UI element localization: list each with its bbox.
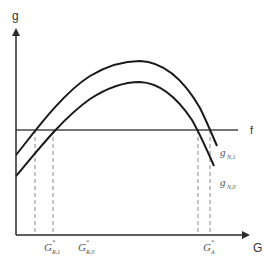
tick-label-g-r0-main: G xyxy=(78,241,86,253)
curve-label-g-n0-sub: N,0 xyxy=(226,184,236,190)
curve-label-g-n0: g N,0 xyxy=(220,176,236,190)
curve-g-n0 xyxy=(16,82,214,176)
y-axis-label: g xyxy=(12,9,19,23)
curve-label-g-n0-main: g xyxy=(220,176,226,188)
tick-label-g-r1-sup: * xyxy=(52,239,55,245)
threshold-label-f: f xyxy=(250,124,254,136)
curve-label-g-n1-main: g xyxy=(220,146,226,158)
diagram: g G f g N,1 g N,0 G * R,1 G * R,0 G * A xyxy=(0,0,265,265)
tick-label-g-r1: G * R,1 xyxy=(44,239,60,255)
tick-label-g-r0: G * R,0 xyxy=(78,239,94,255)
curve-label-g-n1: g N,1 xyxy=(220,146,236,160)
dashed-guides xyxy=(35,130,210,235)
x-axis-label: G xyxy=(253,241,262,255)
tick-label-g-r0-sup: * xyxy=(86,239,89,245)
curve-label-g-n1-sub: N,1 xyxy=(226,154,236,160)
tick-label-g-r1-main: G xyxy=(44,241,52,253)
tick-label-g-a-sup: * xyxy=(211,239,214,245)
tick-label-g-a: G * A xyxy=(203,239,215,255)
tick-label-g-r0-sub: R,0 xyxy=(85,249,94,255)
tick-label-g-a-main: G xyxy=(203,241,211,253)
tick-label-g-a-sub: A xyxy=(210,249,215,255)
tick-label-g-r1-sub: R,1 xyxy=(51,249,60,255)
